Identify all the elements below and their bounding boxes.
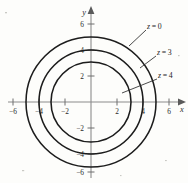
x-tick-label-6: 6 [167,107,171,116]
svg-text:z=4: z=4 [157,71,173,80]
y-tick-label--6: −6 [76,168,84,177]
level-curve-figure: −6 −4 −2 2 4 6 6 4 2 −2 −4 −6 y x z=0 z=… [0,0,188,183]
y-tick-label-4: 4 [80,46,84,55]
curve-annotation-z4: z=4 [157,71,173,80]
curve-annotation-z0: z=0 [146,22,162,31]
y-tick-label-2: 2 [80,72,84,81]
z0-variable: z [146,22,150,31]
x-tick-label-2: 2 [115,107,119,116]
x-tick-label--4: −4 [35,107,43,116]
curve-annotation-z3: z=3 [156,48,172,57]
z4-variable: z [157,71,161,80]
z4-equals: = [163,71,168,80]
y-tick-label-6: 6 [80,20,84,29]
z3-value: 3 [168,48,172,57]
plot-canvas: −6 −4 −2 2 4 6 6 4 2 −2 −4 −6 y x z=0 z=… [0,0,188,183]
x-tick-label--6: −6 [9,107,17,116]
y-tick-label--4: −4 [76,150,84,159]
svg-text:z=0: z=0 [146,22,162,31]
z3-variable: z [156,48,160,57]
z4-value: 4 [169,71,173,80]
z3-equals: = [162,48,167,57]
x-axis-label: x [179,105,184,114]
y-tick-label--2: −2 [76,124,84,133]
svg-text:z=3: z=3 [156,48,172,57]
z0-equals: = [152,22,157,31]
z0-value: 0 [158,22,162,31]
y-axis-label: y [81,8,86,17]
x-tick-label-4: 4 [141,107,145,116]
x-tick-label--2: −2 [61,107,69,116]
